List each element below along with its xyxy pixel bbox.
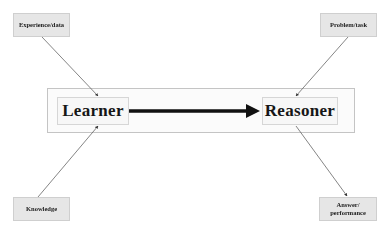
- connector-lines: [0, 0, 390, 232]
- edge-knowledge-to-learner: [38, 126, 98, 197]
- edge-experience-to-learner: [42, 37, 98, 96]
- edge-reasoner-to-answer: [296, 126, 347, 196]
- edge-problem-to-reasoner: [296, 37, 348, 96]
